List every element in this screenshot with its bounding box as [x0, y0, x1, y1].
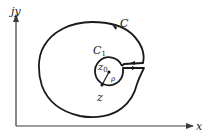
contour-diagram: jy x C C1 z0 ρ z [0, 0, 209, 137]
inner-contour-label: C1 [93, 45, 106, 58]
y-axis-label: jy [11, 6, 21, 17]
point-z-on-c1 [100, 83, 103, 86]
center-point-label-sub: 0 [103, 66, 107, 74]
outer-contour-c [39, 22, 144, 117]
point-z-label: z [97, 92, 103, 103]
center-point-label: z0 [98, 62, 108, 74]
outer-contour-label: C [120, 18, 128, 29]
arrow-slot-lower-icon [132, 66, 137, 70]
radius-label: ρ [111, 76, 115, 83]
inner-contour-label-sub: 1 [101, 50, 105, 58]
x-axis-label: x [196, 121, 202, 132]
